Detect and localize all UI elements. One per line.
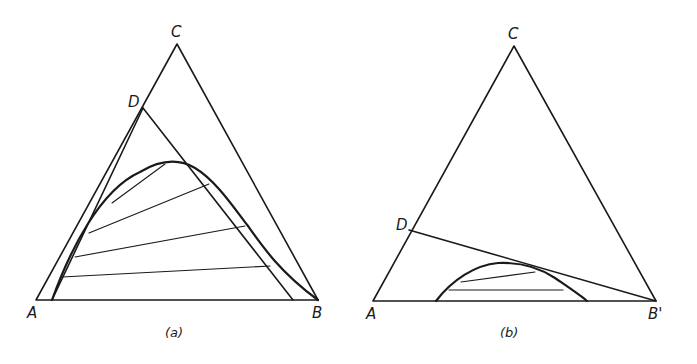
vertex-label-a-a: A	[27, 306, 37, 321]
tie-line-a-1	[62, 266, 270, 277]
inner-left-line-a	[52, 108, 143, 300]
vertex-label-d-a: D	[128, 95, 140, 110]
vertex-label-b-prime: B'	[648, 307, 662, 322]
binodal-curve-b	[436, 263, 587, 301]
ternary-figure: C D A B (a) C D A B' (b)	[0, 0, 697, 364]
vertex-label-c-a: C	[171, 25, 181, 40]
tie-line-a-4	[112, 164, 165, 203]
binodal-curve-a	[52, 162, 318, 300]
panel-b	[373, 46, 656, 301]
diagram-canvas	[0, 0, 697, 364]
vertex-label-d-b: D	[396, 218, 408, 233]
panel-caption-b: (b)	[500, 326, 518, 339]
vertex-label-c-b: C	[508, 27, 518, 42]
tie-line-a-3	[89, 184, 209, 233]
vertex-label-a-b: A	[366, 307, 376, 322]
panel-caption-a: (a)	[165, 326, 183, 339]
vertex-label-b-a: B	[312, 306, 322, 321]
tie-line-a-2	[75, 226, 245, 257]
tie-line-b-1	[461, 272, 535, 282]
panel-a	[36, 44, 318, 300]
